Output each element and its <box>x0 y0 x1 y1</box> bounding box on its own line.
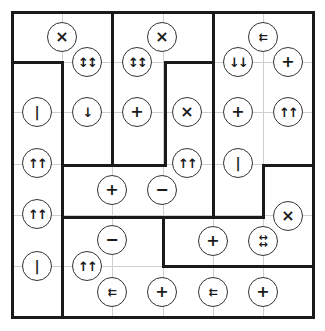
times-icon: × <box>281 208 294 224</box>
clue-circle: + <box>97 175 127 205</box>
double-up-arrow-icon: ↑↑ <box>178 157 196 170</box>
region-wall <box>162 265 315 268</box>
clue-circle: ⇇ <box>97 277 127 307</box>
double-down-arrow-icon: ↓↓ <box>229 56 247 69</box>
region-wall <box>262 164 265 219</box>
double-left-arrow-icon: ⇇ <box>107 289 116 296</box>
region-wall <box>164 61 167 167</box>
clue-circle: − <box>97 225 127 255</box>
plus-icon: + <box>231 104 244 120</box>
clue-circle: ↑↑ <box>273 97 303 127</box>
clue-circle: | <box>22 251 52 281</box>
clue-circle: + <box>122 97 152 127</box>
plus-icon: + <box>155 284 168 300</box>
clue-circle: ↑↑ <box>172 148 202 178</box>
vertical-bar-icon: | <box>235 156 240 170</box>
region-wall <box>11 61 64 64</box>
clue-circle: − <box>147 175 177 205</box>
clue-circle: + <box>248 277 278 307</box>
double-leftright-arrow-icon: ↔ ↔ <box>258 234 267 248</box>
clue-circle: | <box>223 148 253 178</box>
clue-circle: ↓↓ <box>223 47 253 77</box>
region-wall <box>262 164 315 167</box>
region-wall <box>11 11 315 14</box>
minus-icon: − <box>105 232 118 248</box>
clue-circle: ↑↑ <box>22 199 52 229</box>
double-up-arrow-icon: ↑↑ <box>28 157 46 170</box>
double-up-arrow-icon: ↑↑ <box>28 208 46 221</box>
clue-circle: ↑↑ <box>22 148 52 178</box>
region-wall <box>11 316 315 319</box>
times-icon: × <box>55 29 68 45</box>
double-left-arrow-icon: ⇇ <box>208 289 217 296</box>
plus-icon: + <box>206 233 219 249</box>
region-wall <box>61 61 64 319</box>
clue-circle: + <box>223 97 253 127</box>
clue-circle: ↓ <box>72 97 102 127</box>
clue-circle: ↑↑ <box>72 251 102 281</box>
plus-icon: + <box>256 284 269 300</box>
clue-circle: ⇇ <box>198 277 228 307</box>
times-icon: × <box>180 104 193 120</box>
clue-circle: × <box>172 97 202 127</box>
region-wall <box>11 11 14 319</box>
clue-circle: | <box>22 97 52 127</box>
clue-circle: ↕↕ <box>122 47 152 77</box>
minus-icon: − <box>155 182 168 198</box>
times-icon: × <box>155 29 168 45</box>
region-wall <box>111 11 114 167</box>
region-wall <box>164 61 215 64</box>
plus-icon: + <box>130 104 143 120</box>
down-arrow-icon: ↓ <box>83 106 92 119</box>
double-up-arrow-icon: ↑↑ <box>78 260 96 273</box>
clue-circle: ↔ ↔ <box>248 226 278 256</box>
clue-circle: ↕↕ <box>72 47 102 77</box>
region-wall <box>212 11 215 219</box>
region-wall <box>162 216 165 268</box>
clue-circle: × <box>47 22 77 52</box>
vertical-bar-icon: | <box>34 105 39 119</box>
plus-icon: + <box>281 54 294 70</box>
clue-circle: + <box>198 226 228 256</box>
clue-circle: + <box>147 277 177 307</box>
clue-circle: + <box>273 47 303 77</box>
clue-circle: × <box>273 201 303 231</box>
puzzle-board: ×↕↕↕↕×⇇↓↓+|↓+×+↑↑↑↑↑↑|+−↑↑×−+↔ ↔|↑↑⇇+⇇+ <box>0 0 325 331</box>
double-up-arrow-icon: ↑↑ <box>279 106 297 119</box>
clue-circle: ⇇ <box>248 22 278 52</box>
vertical-bar-icon: | <box>34 259 39 273</box>
clue-circle: × <box>147 22 177 52</box>
region-wall <box>61 164 167 167</box>
double-left-arrow-icon: ⇇ <box>258 34 267 41</box>
double-updown-arrow-icon: ↕↕ <box>128 56 146 69</box>
double-updown-arrow-icon: ↕↕ <box>78 56 96 69</box>
plus-icon: + <box>105 182 118 198</box>
